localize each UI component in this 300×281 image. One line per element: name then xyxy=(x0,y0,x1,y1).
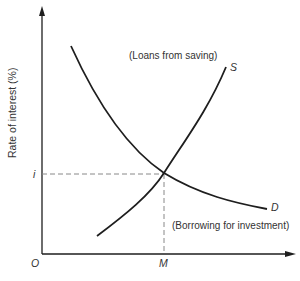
supply-curve-label: S xyxy=(230,61,237,73)
demand-annotation: (Borrowing for investment) xyxy=(172,220,289,231)
demand-curve-label: D xyxy=(271,201,279,213)
loanable-funds-diagram: Rate of interest (%) O i M S D (Loans fr… xyxy=(0,0,300,281)
x-axis xyxy=(42,251,296,257)
supply-annotation: (Loans from saving) xyxy=(129,50,217,61)
origin-label: O xyxy=(31,257,39,269)
y-axis xyxy=(39,6,45,254)
y-axis-label: Rate of interest (%) xyxy=(6,68,18,158)
supply-curve xyxy=(97,67,226,236)
demand-curve xyxy=(71,46,267,209)
y-axis-arrow-icon xyxy=(39,6,45,16)
equilibrium-rate-label: i xyxy=(33,168,36,180)
equilibrium-quantity-label: M xyxy=(159,257,168,269)
x-axis-arrow-icon xyxy=(285,251,296,257)
